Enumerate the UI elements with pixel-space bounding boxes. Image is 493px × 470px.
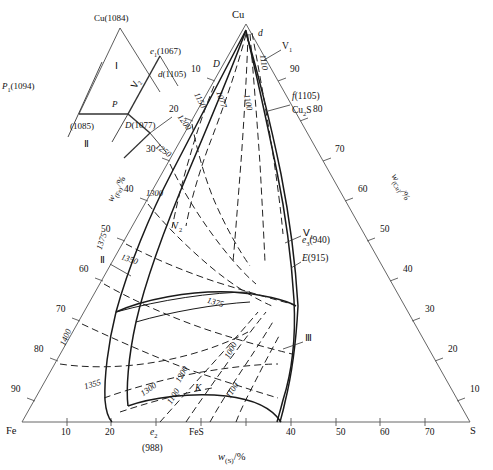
point-label-cu2s: Cu2S xyxy=(292,106,312,117)
region-label-V2: V2 xyxy=(172,222,182,233)
point-label-K: K xyxy=(195,384,201,394)
tick-bottom-e2-temp: (988) xyxy=(142,444,163,454)
diagram-vector-layer xyxy=(0,0,493,470)
tick-bottom-e2: e2 xyxy=(150,428,157,439)
inset-label-P1: P1(1094) xyxy=(2,82,35,93)
point-label-f: f(1105) xyxy=(292,92,320,102)
tick-left-20: 20 xyxy=(169,105,179,115)
phase-diagram-canvas: Cu(1084) e1(1067) d(1105) P1(1094) P (10… xyxy=(0,0,493,470)
inset-label-P: P xyxy=(112,100,118,109)
inset-label-cu: Cu(1084) xyxy=(94,14,129,23)
inset-region-I: Ⅰ xyxy=(115,62,118,72)
tick-bottom-70: 70 xyxy=(425,428,435,438)
tick-right-60: 60 xyxy=(358,185,368,195)
inset-label-D: D(1077) xyxy=(125,121,156,130)
tick-left-80: 80 xyxy=(34,345,44,355)
inset-label-1085: (1085) xyxy=(70,122,94,131)
tick-bottom-60: 60 xyxy=(380,428,390,438)
tick-bottom-10: 10 xyxy=(61,428,71,438)
region-label-V1: V1 xyxy=(282,42,292,53)
inset-label-e1: e1(1067) xyxy=(150,47,181,58)
tick-right-30: 30 xyxy=(425,305,435,315)
tick-right-90: 90 xyxy=(290,65,300,75)
point-label-E: E(915) xyxy=(302,254,328,264)
tick-bottom-50: 50 xyxy=(336,428,346,438)
region-label-III: Ⅲ xyxy=(305,334,312,344)
tick-left-60: 60 xyxy=(79,265,89,275)
tick-left-70: 70 xyxy=(56,305,66,315)
region-label-II: Ⅱ xyxy=(100,256,105,266)
corner-label-cu: Cu xyxy=(232,10,244,21)
tick-right-20: 20 xyxy=(448,345,458,355)
tick-right-70: 70 xyxy=(335,145,345,155)
tick-left-90: 90 xyxy=(11,385,21,395)
tick-right-80: 80 xyxy=(313,105,323,115)
tick-bottom-40: 40 xyxy=(286,428,296,438)
region-label-IV1: Ⅴ1 xyxy=(303,229,313,240)
inset-label-d: d(1105) xyxy=(158,70,186,79)
isotherm-label-1100: 1100 xyxy=(243,93,254,111)
tie-lines xyxy=(116,292,250,322)
tick-right-10: 10 xyxy=(470,385,480,395)
isotherm-label-1110: 1110 xyxy=(258,54,269,71)
axis-title-bottom: w(S)/% xyxy=(218,452,245,465)
liquidus-boundaries xyxy=(105,30,298,422)
point-label-d: d xyxy=(258,29,263,39)
isotherm-label-1300: 1300 xyxy=(146,189,163,198)
tick-right-50: 50 xyxy=(380,225,390,235)
corner-label-fe: Fe xyxy=(6,426,17,437)
tick-left-10: 10 xyxy=(191,65,201,75)
point-label-D: D xyxy=(213,60,220,70)
corner-label-s: S xyxy=(470,426,476,437)
tick-bottom-FeS: FeS xyxy=(189,428,204,438)
inset-region-II: Ⅱ xyxy=(84,140,89,150)
tick-bottom-20: 20 xyxy=(105,428,115,438)
tick-left-40: 40 xyxy=(124,185,134,195)
tick-right-40: 40 xyxy=(403,265,413,275)
